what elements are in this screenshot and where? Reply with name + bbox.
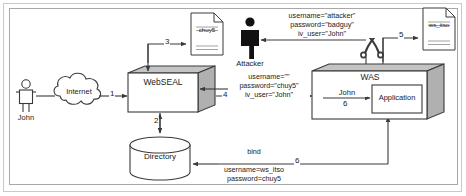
edge-was-wsitso xyxy=(383,38,418,62)
was-label: WAS xyxy=(340,73,400,82)
application-label: Application xyxy=(372,94,422,102)
document-ws-itso xyxy=(422,7,456,55)
bind-creds-line1: bind xyxy=(212,148,296,156)
document-chuy5-label: chuy5 xyxy=(190,27,224,34)
webseal-creds-line2: password="chuy5" xyxy=(228,82,310,90)
step-5-label: 5 xyxy=(398,31,404,40)
webseal-creds-line1: username="" xyxy=(228,73,310,81)
john-label: John xyxy=(6,114,46,122)
document-chuy5 xyxy=(190,12,224,60)
webseal-label: WebSEAL xyxy=(128,78,198,87)
diagram-canvas: chuy5 ws_itso John Internet WebSEAL Dire… xyxy=(0,0,466,196)
attacker-person-icon xyxy=(241,17,259,59)
step-6-inner-label: 6 xyxy=(342,100,348,109)
document-ws-itso-label: ws_itso xyxy=(422,22,456,29)
attacker-label: Attacker xyxy=(230,60,270,68)
bind-creds-line3: password=chuy5 xyxy=(202,175,306,183)
step-3-label: 3 xyxy=(164,38,170,47)
was-user-label: John xyxy=(327,89,367,97)
bind-creds-line2: username=ws_itso xyxy=(202,166,306,174)
directory-label: Directory xyxy=(130,153,190,162)
john-person-icon xyxy=(16,80,36,112)
webseal-creds-line3: iv_user="John" xyxy=(228,91,310,99)
attacker-creds-line1: username="attacker" xyxy=(262,12,382,20)
step-1-label: 1 xyxy=(109,90,115,99)
internet-label: Internet xyxy=(57,88,101,96)
step-2-label: 2 xyxy=(153,117,159,126)
edge-webseal-chuy5 xyxy=(148,44,186,63)
attacker-creds-line2: password="badguy" xyxy=(262,21,382,29)
attacker-creds-line3: iv_user="John" xyxy=(262,30,382,38)
step-6-bind-label: 6 xyxy=(294,157,300,166)
